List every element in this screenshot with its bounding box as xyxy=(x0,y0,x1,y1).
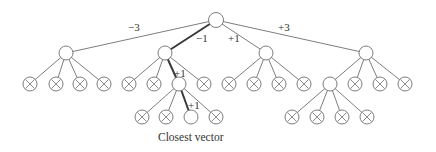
edge-weight-label: +3 xyxy=(278,21,290,33)
tree-node xyxy=(209,13,224,28)
pruned-node xyxy=(197,77,211,91)
pruned-node xyxy=(222,77,236,91)
pruned-node xyxy=(122,77,136,91)
pruned-node xyxy=(23,77,37,91)
tree-node xyxy=(158,46,172,60)
pruned-node xyxy=(247,77,261,91)
pruned-node xyxy=(97,77,111,91)
edge-weight-label: +1 xyxy=(174,67,186,79)
edge-weight-label: +1 xyxy=(228,32,240,44)
pruned-node xyxy=(297,77,311,91)
pruned-node xyxy=(159,110,173,124)
pruned-node xyxy=(360,110,374,124)
pruned-node xyxy=(285,110,299,124)
pruned-node xyxy=(272,77,286,91)
pruned-node xyxy=(310,110,324,124)
lattice-search-tree: −3−1+1+3+1+1 Closest vector xyxy=(0,0,436,152)
tree-edge xyxy=(216,20,266,53)
tree-node xyxy=(184,110,198,124)
pruned-node xyxy=(398,77,412,91)
closest-vector-caption: Closest vector xyxy=(158,131,224,143)
tree-edges xyxy=(30,20,405,117)
pruned-node xyxy=(373,77,387,91)
tree-node xyxy=(259,46,273,60)
pruned-node xyxy=(49,77,63,91)
edge-weight-label: −1 xyxy=(196,32,208,44)
search-path-edge xyxy=(165,20,216,53)
pruned-node xyxy=(147,77,161,91)
tree-node xyxy=(359,46,373,60)
pruned-node xyxy=(348,77,362,91)
tree-edge xyxy=(292,84,330,117)
tree-node xyxy=(172,77,186,91)
tree-node xyxy=(323,77,337,91)
edge-weight-label: +1 xyxy=(188,99,200,111)
edge-labels: −3−1+1+3+1+1 xyxy=(128,21,290,111)
pruned-node xyxy=(209,110,223,124)
pruned-node xyxy=(335,110,349,124)
tree-node xyxy=(59,46,73,60)
pruned-node xyxy=(135,110,149,124)
tree-nodes xyxy=(23,13,412,125)
edge-weight-label: −3 xyxy=(128,21,140,33)
tree-edge xyxy=(66,20,216,53)
pruned-node xyxy=(73,77,87,91)
